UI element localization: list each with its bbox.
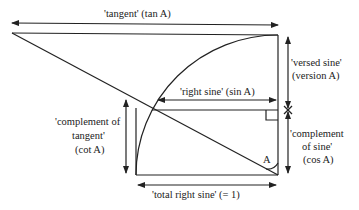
- secant-line: [12, 33, 278, 175]
- total-sine-label: 'total right sine' (= 1): [152, 189, 240, 201]
- versed-sine-label-2: (version A): [292, 70, 340, 82]
- top-edge: [12, 33, 278, 35]
- tangent-label: 'tangent' (tan A): [104, 8, 171, 20]
- quadrant-arc: [136, 35, 278, 175]
- comp-tangent-label-1: 'complement of: [55, 116, 120, 128]
- comp-sine-label-3: (cos A): [303, 154, 334, 166]
- comp-sine-label-2: of sine': [302, 141, 332, 153]
- right-angle-mark: [266, 110, 278, 120]
- versed-sine-label-1: 'versed sine': [291, 57, 342, 69]
- comp-tangent-label-3: (cot A): [75, 144, 104, 156]
- trig-diagram: [0, 0, 359, 210]
- angle-label: A: [263, 154, 271, 166]
- comp-sine-label-1: 'complement: [290, 128, 344, 140]
- comp-tangent-label-2: tangent': [72, 130, 105, 142]
- tangent-arrow: [12, 23, 278, 25]
- right-sine-label: 'right sine' (sin A): [180, 86, 255, 98]
